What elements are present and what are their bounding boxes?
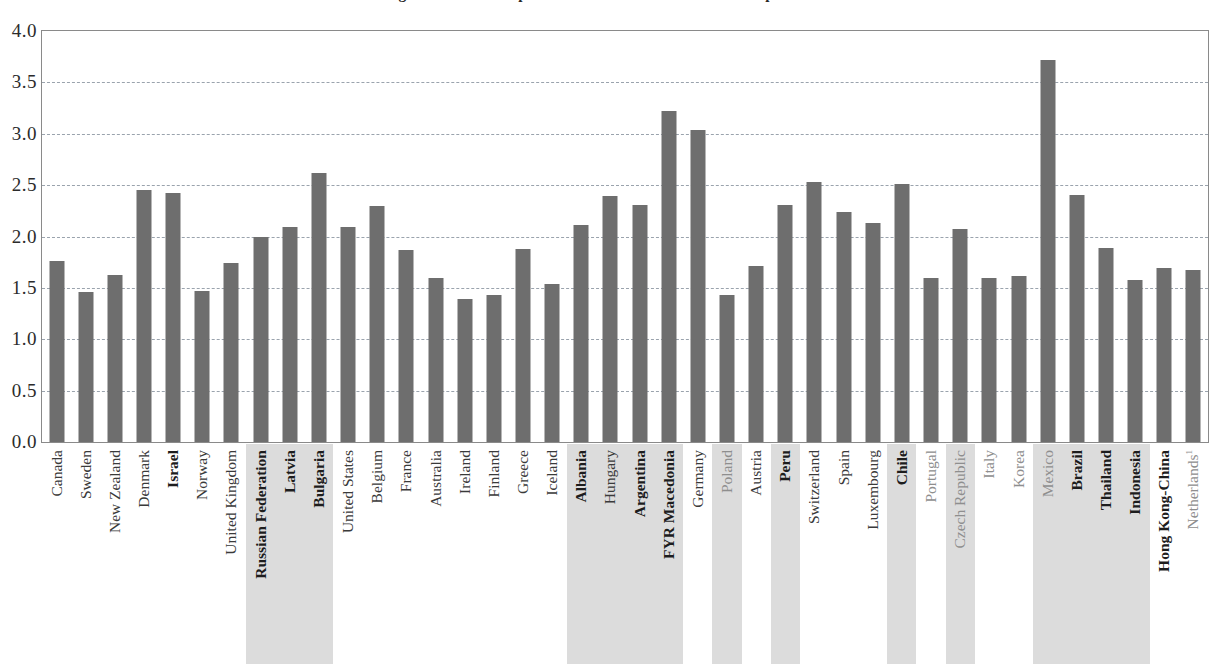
x-axis-label[interactable]: Belgium xyxy=(369,450,385,503)
x-axis-label[interactable]: Norway xyxy=(195,450,211,500)
x-axis-label-slot: Spain xyxy=(829,444,858,664)
bar[interactable] xyxy=(486,295,501,442)
y-axis-tick-label: 0.0 xyxy=(0,431,37,453)
chart-title-clipped: Figure A: Annual expenditure on educatio… xyxy=(0,0,1225,16)
bar[interactable] xyxy=(253,237,268,443)
x-axis-label[interactable]: Greece xyxy=(515,450,531,494)
bar[interactable] xyxy=(457,299,472,442)
bar[interactable] xyxy=(690,130,705,442)
bar-slot xyxy=(567,31,596,442)
bar[interactable] xyxy=(545,284,560,442)
x-axis-label-slot: Sweden xyxy=(71,444,100,664)
bar[interactable] xyxy=(778,205,793,442)
bar[interactable] xyxy=(282,227,297,442)
bar[interactable] xyxy=(1011,276,1026,442)
x-axis-label[interactable]: United States xyxy=(340,450,356,533)
x-axis-label[interactable]: FYR Macedonia xyxy=(661,450,677,559)
x-axis-label[interactable]: Brazil xyxy=(1069,450,1085,490)
x-axis-label[interactable]: Switzerland xyxy=(807,450,823,524)
x-axis-label[interactable]: Albania xyxy=(574,450,590,503)
bar[interactable] xyxy=(49,261,64,442)
x-axis-label[interactable]: Denmark xyxy=(136,450,152,508)
x-axis-label[interactable]: Italy xyxy=(982,450,998,478)
y-axis-tick-label: 2.5 xyxy=(0,174,37,196)
bar[interactable] xyxy=(924,278,939,442)
x-axis-label[interactable]: Spain xyxy=(836,450,852,485)
bar[interactable] xyxy=(836,212,851,442)
bar[interactable] xyxy=(137,190,152,442)
bar[interactable] xyxy=(1157,268,1172,442)
bar-slot xyxy=(683,31,712,442)
x-axis-label[interactable]: Austria xyxy=(748,450,764,496)
x-axis-label-slot: United States xyxy=(334,444,363,664)
x-axis-label[interactable]: France xyxy=(399,450,415,492)
bar[interactable] xyxy=(166,193,181,442)
bar[interactable] xyxy=(749,266,764,442)
bar[interactable] xyxy=(807,182,822,442)
bar[interactable] xyxy=(1128,280,1143,442)
bar[interactable] xyxy=(78,292,93,442)
x-axis-label[interactable]: Poland xyxy=(719,450,735,493)
x-axis-label-slot: Switzerland xyxy=(800,444,829,664)
bar-slot xyxy=(946,31,975,442)
x-axis-label[interactable]: Korea xyxy=(1011,450,1027,488)
bar[interactable] xyxy=(1098,248,1113,442)
x-axis-label[interactable]: Bulgaria xyxy=(311,450,327,508)
x-axis-label[interactable]: Iceland xyxy=(544,450,560,496)
bar[interactable] xyxy=(311,173,326,442)
y-axis-tick-label: 1.0 xyxy=(0,328,37,350)
x-axis-label[interactable]: Israel xyxy=(165,450,181,488)
x-axis-label[interactable]: Germany xyxy=(690,450,706,508)
bar[interactable] xyxy=(399,250,414,442)
bar[interactable] xyxy=(107,275,122,442)
x-axis-label[interactable]: Hungary xyxy=(603,450,619,504)
x-axis-label[interactable]: Chile xyxy=(894,450,910,485)
bar[interactable] xyxy=(1069,195,1084,442)
x-axis-label[interactable]: Luxembourg xyxy=(865,450,881,530)
bar[interactable] xyxy=(515,249,530,442)
x-axis-label[interactable]: Indonesia xyxy=(1127,450,1143,515)
bar-slot xyxy=(712,31,741,442)
bar-slot xyxy=(392,31,421,442)
bar[interactable] xyxy=(574,225,589,442)
x-axis-label[interactable]: Ireland xyxy=(457,450,473,494)
bar-slot xyxy=(1121,31,1150,442)
x-axis-label[interactable]: Thailand xyxy=(1098,450,1114,510)
x-axis-label[interactable]: Russian Federation xyxy=(253,450,269,579)
bar-slot xyxy=(538,31,567,442)
bar[interactable] xyxy=(1186,270,1201,442)
x-axis-label[interactable]: Netherlands1 xyxy=(1186,450,1202,529)
bar[interactable] xyxy=(603,196,618,442)
x-axis-label[interactable]: Latvia xyxy=(282,450,298,493)
x-axis-label[interactable]: Argentina xyxy=(632,450,648,517)
y-axis-tick-label: 3.0 xyxy=(0,123,37,145)
bar[interactable] xyxy=(865,223,880,442)
chart-figure: Figure A: Annual expenditure on educatio… xyxy=(0,0,1225,664)
bar[interactable] xyxy=(195,291,210,442)
bar[interactable] xyxy=(894,184,909,442)
bar[interactable] xyxy=(224,263,239,442)
x-axis-label[interactable]: Czech Republic xyxy=(952,450,968,549)
x-axis-label[interactable]: Peru xyxy=(778,450,794,482)
x-axis-label[interactable]: Canada xyxy=(49,450,65,496)
x-axis-label[interactable]: Mexico xyxy=(1040,450,1056,497)
bar[interactable] xyxy=(632,205,647,442)
bar[interactable] xyxy=(428,278,443,442)
bar[interactable] xyxy=(661,111,676,442)
x-axis-label[interactable]: Portugal xyxy=(923,450,939,503)
bar[interactable] xyxy=(953,229,968,442)
bar[interactable] xyxy=(1040,60,1055,442)
bar[interactable] xyxy=(341,227,356,442)
x-axis-label-slot: Greece xyxy=(508,444,537,664)
x-axis-label[interactable]: United Kingdom xyxy=(224,450,240,555)
bar[interactable] xyxy=(370,206,385,442)
x-axis-label[interactable]: Australia xyxy=(428,450,444,507)
bar[interactable] xyxy=(720,295,735,442)
x-axis-label[interactable]: Hong Kong-China xyxy=(1157,450,1173,572)
bar-slot xyxy=(71,31,100,442)
x-axis-label[interactable]: Finland xyxy=(486,450,502,497)
x-axis-label[interactable]: Sweden xyxy=(78,450,94,499)
bar[interactable] xyxy=(982,278,997,442)
x-axis-label-slot: New Zealand xyxy=(100,444,129,664)
x-axis-label[interactable]: New Zealand xyxy=(107,450,123,533)
